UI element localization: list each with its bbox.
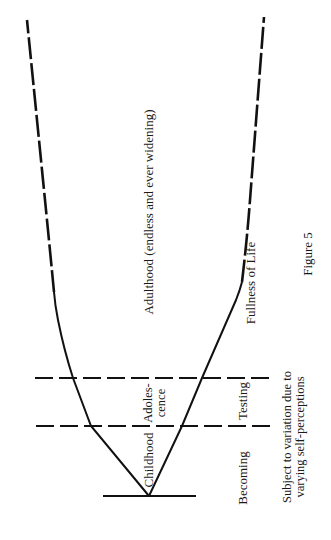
adulthood-label: Adulthood (endless and ever widening) bbox=[142, 109, 156, 314]
left-boundary-dashed bbox=[27, 20, 54, 292]
variation-note: Subject to variation due to varying self… bbox=[281, 371, 307, 503]
adolescence-label: Adoles- cence bbox=[142, 383, 168, 423]
becoming-label: Becoming bbox=[236, 451, 250, 504]
left-boundary-solid bbox=[54, 292, 149, 496]
figure-caption: Figure 5 bbox=[301, 232, 315, 276]
variation-line-2: varying self-perceptions bbox=[294, 376, 307, 497]
testing-label: Testing bbox=[236, 382, 250, 420]
adolescence-line-2: cence bbox=[155, 389, 168, 417]
fullness-of-life-label: Fullness of Life bbox=[244, 242, 258, 324]
childhood-label: Childhood bbox=[142, 433, 156, 488]
